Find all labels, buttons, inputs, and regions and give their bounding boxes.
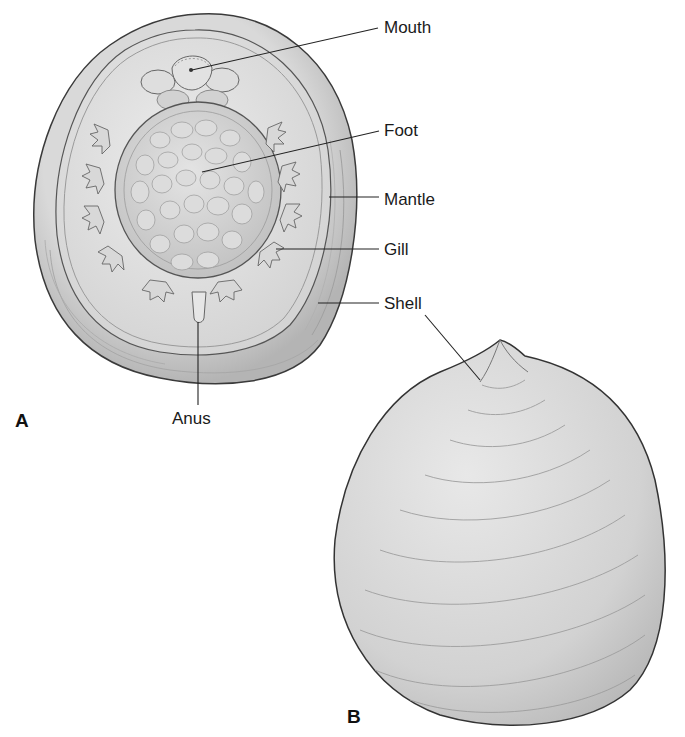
diagram-artwork [0,0,685,737]
label-anus: Anus [172,410,211,427]
panel-label-a: A [15,411,29,430]
label-gill: Gill [384,241,409,258]
label-mantle: Mantle [384,191,435,208]
label-mouth: Mouth [384,19,431,36]
foot [115,102,281,278]
panel-label-b: B [347,707,361,726]
conical-shell [334,340,665,725]
label-shell: Shell [384,295,422,312]
label-foot: Foot [384,122,418,139]
anus-papilla [192,292,206,323]
panel-b-shell [334,340,665,725]
